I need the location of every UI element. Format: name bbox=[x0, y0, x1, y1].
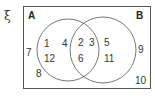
region-intersection-element: 3 bbox=[89, 37, 95, 48]
region-a-only-element: 12 bbox=[44, 53, 56, 64]
region-intersection-element: 6 bbox=[78, 53, 84, 64]
region-b-only-element: 5 bbox=[104, 37, 110, 48]
universal-set-rectangle bbox=[24, 7, 151, 89]
region-outside-element: 8 bbox=[36, 68, 42, 79]
region-outside-element: 7 bbox=[26, 47, 32, 58]
set-b-circle bbox=[70, 17, 136, 83]
venn-diagram: ξ A B 1 4 12 2 3 6 5 11 7 8 9 10 bbox=[0, 0, 155, 96]
universal-set-symbol: ξ bbox=[4, 9, 11, 23]
region-outside-element: 9 bbox=[138, 44, 144, 55]
region-a-only-element: 4 bbox=[62, 38, 68, 49]
region-intersection-element: 2 bbox=[78, 37, 84, 48]
region-a-only-element: 1 bbox=[44, 38, 50, 49]
set-b-label: B bbox=[136, 10, 143, 21]
region-b-only-element: 11 bbox=[104, 53, 115, 64]
region-outside-element: 10 bbox=[135, 75, 147, 86]
set-a-label: A bbox=[28, 10, 35, 21]
set-a-circle bbox=[37, 19, 99, 81]
